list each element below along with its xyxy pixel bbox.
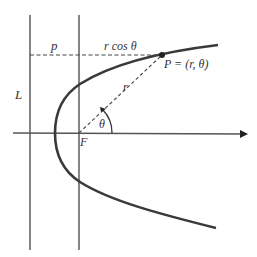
label-p: p xyxy=(50,38,58,53)
label-r-cos-theta: r cos θ xyxy=(104,39,137,53)
label-focus-f: F xyxy=(79,135,88,149)
diagram-svg: p r cos θ P = (r, θ) L r θ F xyxy=(0,0,257,257)
label-directrix-l: L xyxy=(14,87,22,102)
label-point-p: P = (r, θ) xyxy=(163,57,208,71)
polar-axis-arrow xyxy=(13,133,246,134)
label-r: r xyxy=(123,80,128,94)
label-theta: θ xyxy=(99,117,105,131)
parabola-diagram: p r cos θ P = (r, θ) L r θ F xyxy=(0,0,257,257)
